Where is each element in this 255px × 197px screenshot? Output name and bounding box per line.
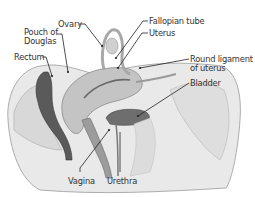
label-rectum: Rectum [14, 53, 44, 62]
label-pouch-of-douglas: Pouch of Douglas [24, 28, 56, 46]
label-vagina: Vagina [68, 177, 95, 186]
ovary-shape [106, 38, 118, 54]
label-urethra: Urethra [107, 177, 137, 186]
label-ovary: Ovary [58, 20, 82, 29]
label-round-line2: of uterus [190, 64, 253, 73]
label-fallopian-tube: Fallopian tube [149, 17, 204, 26]
label-bladder: Bladder [190, 79, 221, 88]
label-uterus: Uterus [149, 29, 175, 38]
leader-ovary [79, 24, 102, 46]
label-round-ligament: Round ligament of uterus [190, 55, 253, 73]
label-pouch-line2: Douglas [24, 37, 56, 46]
